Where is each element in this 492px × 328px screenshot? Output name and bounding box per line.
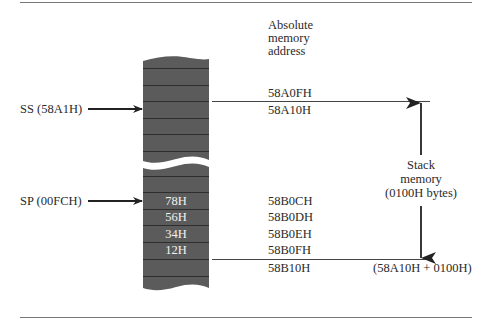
stack-size-line-3: (0100H bytes) bbox=[371, 186, 471, 200]
address-bottom-formula: (58A10H + 0100H) bbox=[373, 261, 472, 275]
title-line-3: address bbox=[268, 45, 313, 58]
stack-size-label: Stack memory (0100H bytes) bbox=[371, 158, 471, 200]
stack-size-line-1: Stack bbox=[371, 158, 471, 172]
address-bottom-end: 58B10H bbox=[268, 261, 310, 275]
stack-size-line-2: memory bbox=[371, 172, 471, 186]
stack-cell-address: 58B0FH bbox=[268, 243, 311, 257]
address-top-start: 58A10H bbox=[268, 103, 311, 117]
stack-cell-value: 12H bbox=[143, 243, 209, 257]
address-column-title: Absolute memory address bbox=[268, 19, 313, 58]
address-top-before: 58A0FH bbox=[268, 86, 312, 100]
ss-register-label: SS (58A1H) bbox=[20, 102, 82, 116]
memory-block-upper bbox=[143, 56, 209, 162]
stack-cell-value: 78H bbox=[143, 194, 209, 208]
stack-cell-address: 58B0CH bbox=[268, 194, 312, 208]
sp-register-label: SP (00FCH) bbox=[20, 194, 82, 208]
stack-cell-address: 58B0DH bbox=[268, 210, 313, 224]
stack-cell-value: 34H bbox=[143, 227, 209, 241]
stack-cell-value: 56H bbox=[143, 210, 209, 224]
stack-cell-address: 58B0EH bbox=[268, 227, 312, 241]
